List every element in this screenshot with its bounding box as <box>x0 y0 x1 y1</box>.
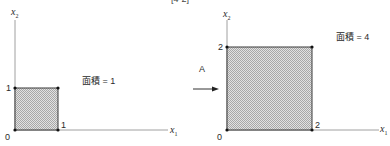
vertex-dot <box>310 45 313 48</box>
right-origin-label: 0 <box>217 132 222 142</box>
right-area-label: 面積 = 4 <box>336 32 369 42</box>
left-origin-label: 0 <box>5 132 10 142</box>
right-x-tick-label: 2 <box>315 120 320 130</box>
left-y-tick-label: 1 <box>6 83 11 93</box>
vertex-dot <box>56 86 59 89</box>
diagram-canvas <box>0 0 390 146</box>
vertex-dot <box>56 128 59 131</box>
arrowhead-icon <box>212 87 219 92</box>
right-y-tick-label: 2 <box>218 42 223 52</box>
vertex-dot <box>225 45 228 48</box>
left-area-label: 面積 = 1 <box>82 76 115 86</box>
left-y-axis-label: x2 <box>11 7 18 21</box>
transform-label: A <box>199 64 205 74</box>
vertex-dot <box>225 128 228 131</box>
right-y-axis-label: x2 <box>223 9 230 23</box>
vertex-dot <box>310 128 313 131</box>
vertex-dot <box>13 86 16 89</box>
left-unit-square <box>15 88 58 130</box>
right-x-axis-label: x1 <box>380 124 387 138</box>
left-x-tick-label: 1 <box>61 120 66 130</box>
vertex-dot <box>13 128 16 131</box>
transform-arrow <box>193 87 219 92</box>
left-x-axis-label: x1 <box>170 125 177 139</box>
right-transformed-square <box>227 47 312 130</box>
